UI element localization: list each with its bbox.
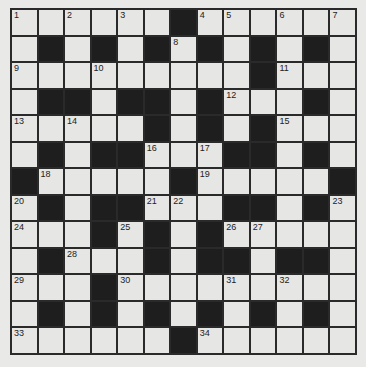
crossword-cell[interactable]	[277, 37, 302, 62]
crossword-cell[interactable]	[39, 222, 64, 247]
crossword-cell[interactable]	[65, 328, 90, 353]
crossword-cell[interactable]	[39, 328, 64, 353]
crossword-cell[interactable]: 14	[65, 116, 90, 141]
crossword-cell[interactable]	[277, 143, 302, 168]
crossword-cell[interactable]	[118, 302, 143, 327]
crossword-cell[interactable]	[198, 196, 223, 221]
crossword-cell[interactable]	[330, 37, 355, 62]
crossword-cell[interactable]	[12, 90, 37, 115]
crossword-cell[interactable]	[65, 196, 90, 221]
crossword-cell[interactable]	[330, 143, 355, 168]
crossword-cell[interactable]	[224, 169, 249, 194]
crossword-cell[interactable]	[171, 302, 196, 327]
crossword-cell[interactable]: 21	[145, 196, 170, 221]
crossword-cell[interactable]	[12, 302, 37, 327]
crossword-cell[interactable]: 20	[12, 196, 37, 221]
crossword-cell[interactable]: 10	[92, 63, 117, 88]
crossword-cell[interactable]	[224, 302, 249, 327]
crossword-cell[interactable]: 19	[198, 169, 223, 194]
crossword-cell[interactable]	[39, 63, 64, 88]
crossword-cell[interactable]: 4	[198, 10, 223, 35]
crossword-cell[interactable]: 23	[330, 196, 355, 221]
crossword-cell[interactable]	[171, 222, 196, 247]
crossword-cell[interactable]: 22	[171, 196, 196, 221]
crossword-cell[interactable]	[224, 63, 249, 88]
crossword-cell[interactable]	[251, 10, 276, 35]
crossword-cell[interactable]: 26	[224, 222, 249, 247]
crossword-cell[interactable]	[304, 10, 329, 35]
crossword-cell[interactable]: 1	[12, 10, 37, 35]
crossword-cell[interactable]	[277, 90, 302, 115]
crossword-cell[interactable]	[92, 169, 117, 194]
crossword-cell[interactable]: 12	[224, 90, 249, 115]
crossword-cell[interactable]	[304, 63, 329, 88]
crossword-cell[interactable]	[277, 222, 302, 247]
crossword-cell[interactable]	[251, 328, 276, 353]
crossword-cell[interactable]	[65, 37, 90, 62]
crossword-cell[interactable]	[65, 169, 90, 194]
crossword-cell[interactable]: 11	[277, 63, 302, 88]
crossword-cell[interactable]	[118, 328, 143, 353]
crossword-cell[interactable]	[330, 328, 355, 353]
crossword-cell[interactable]	[277, 328, 302, 353]
crossword-cell[interactable]	[12, 37, 37, 62]
crossword-cell[interactable]	[12, 143, 37, 168]
crossword-cell[interactable]: 27	[251, 222, 276, 247]
crossword-cell[interactable]	[330, 275, 355, 300]
crossword-cell[interactable]	[330, 302, 355, 327]
crossword-cell[interactable]	[277, 169, 302, 194]
crossword-cell[interactable]	[224, 328, 249, 353]
crossword-cell[interactable]	[330, 116, 355, 141]
crossword-cell[interactable]: 15	[277, 116, 302, 141]
crossword-cell[interactable]	[39, 275, 64, 300]
crossword-cell[interactable]: 8	[171, 37, 196, 62]
crossword-cell[interactable]	[304, 275, 329, 300]
crossword-cell[interactable]	[171, 63, 196, 88]
crossword-cell[interactable]: 6	[277, 10, 302, 35]
crossword-cell[interactable]	[145, 169, 170, 194]
crossword-cell[interactable]: 25	[118, 222, 143, 247]
crossword-cell[interactable]	[171, 116, 196, 141]
crossword-cell[interactable]	[251, 275, 276, 300]
crossword-cell[interactable]	[118, 169, 143, 194]
crossword-cell[interactable]	[39, 10, 64, 35]
crossword-cell[interactable]	[92, 10, 117, 35]
crossword-cell[interactable]	[171, 143, 196, 168]
crossword-cell[interactable]: 18	[39, 169, 64, 194]
crossword-cell[interactable]	[304, 328, 329, 353]
crossword-cell[interactable]: 9	[12, 63, 37, 88]
crossword-cell[interactable]	[145, 328, 170, 353]
crossword-cell[interactable]	[92, 328, 117, 353]
crossword-cell[interactable]: 34	[198, 328, 223, 353]
crossword-cell[interactable]	[118, 37, 143, 62]
crossword-cell[interactable]	[198, 275, 223, 300]
crossword-cell[interactable]: 28	[65, 249, 90, 274]
crossword-cell[interactable]	[145, 63, 170, 88]
crossword-cell[interactable]: 29	[12, 275, 37, 300]
crossword-cell[interactable]: 32	[277, 275, 302, 300]
crossword-cell[interactable]	[92, 249, 117, 274]
crossword-cell[interactable]	[251, 249, 276, 274]
crossword-cell[interactable]	[118, 63, 143, 88]
crossword-cell[interactable]: 13	[12, 116, 37, 141]
crossword-cell[interactable]	[304, 222, 329, 247]
crossword-cell[interactable]	[304, 116, 329, 141]
crossword-cell[interactable]: 2	[65, 10, 90, 35]
crossword-cell[interactable]	[171, 249, 196, 274]
crossword-cell[interactable]	[304, 169, 329, 194]
crossword-cell[interactable]	[92, 116, 117, 141]
crossword-cell[interactable]	[92, 90, 117, 115]
crossword-cell[interactable]	[65, 143, 90, 168]
crossword-cell[interactable]	[65, 275, 90, 300]
crossword-cell[interactable]: 17	[198, 143, 223, 168]
crossword-cell[interactable]	[118, 116, 143, 141]
crossword-cell[interactable]	[251, 169, 276, 194]
crossword-cell[interactable]	[39, 116, 64, 141]
crossword-cell[interactable]	[330, 222, 355, 247]
crossword-cell[interactable]	[65, 222, 90, 247]
crossword-cell[interactable]	[277, 302, 302, 327]
crossword-cell[interactable]	[12, 249, 37, 274]
crossword-cell[interactable]	[171, 90, 196, 115]
crossword-cell[interactable]: 24	[12, 222, 37, 247]
crossword-cell[interactable]	[251, 90, 276, 115]
